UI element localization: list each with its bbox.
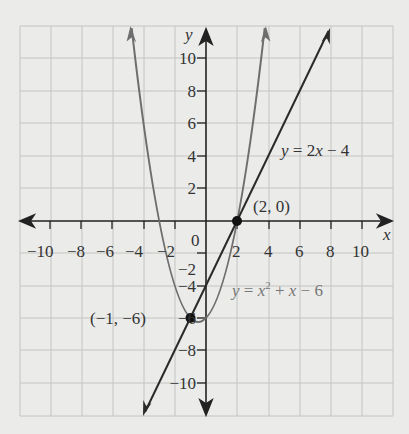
- svg-text:2: 2: [232, 242, 241, 261]
- svg-text:2: 2: [188, 179, 197, 198]
- svg-text:−4: −4: [178, 277, 197, 296]
- svg-text:−4: −4: [125, 242, 144, 261]
- svg-text:−2: −2: [157, 242, 175, 261]
- graph-canvas: −10 −8 −6 −4 −2 2 4 6 8 10 10 8 6 4 2 −2…: [0, 0, 409, 434]
- svg-text:−8: −8: [178, 341, 196, 360]
- parabola-equation-label: y = x2 + x − 6: [230, 279, 323, 300]
- svg-text:8: 8: [188, 82, 197, 101]
- svg-text:6: 6: [188, 114, 197, 133]
- y-axis-label: y: [183, 25, 193, 44]
- svg-text:6: 6: [295, 242, 304, 261]
- origin-label: 0: [191, 231, 200, 250]
- svg-text:−8: −8: [67, 242, 85, 261]
- svg-text:4: 4: [264, 242, 273, 261]
- point-2-0-label: (2, 0): [253, 197, 290, 216]
- svg-text:−6: −6: [96, 242, 114, 261]
- point-neg1-neg6-label: (−1, −6): [90, 309, 146, 328]
- x-axis-label: x: [382, 225, 391, 244]
- parabola-series: [127, 26, 271, 322]
- line-equation-label: y = 2x − 4: [279, 141, 350, 160]
- svg-text:10: 10: [179, 49, 196, 68]
- point-2-0: [232, 216, 242, 226]
- svg-text:−6: −6: [178, 309, 196, 328]
- svg-text:8: 8: [326, 242, 335, 261]
- svg-text:−10: −10: [169, 374, 196, 393]
- svg-text:−10: −10: [27, 242, 54, 261]
- svg-text:4: 4: [188, 147, 197, 166]
- svg-text:10: 10: [352, 242, 369, 261]
- y-axis: [200, 29, 212, 415]
